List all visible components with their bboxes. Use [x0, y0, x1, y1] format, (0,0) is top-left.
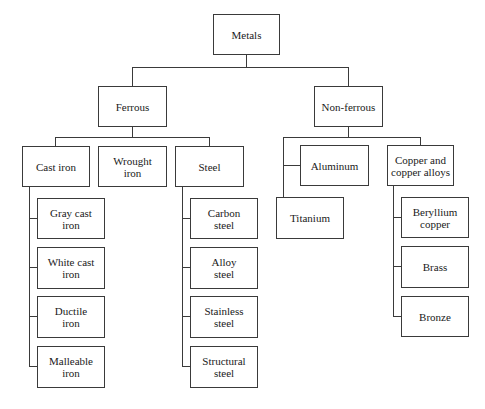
node-metals: Metals: [213, 14, 280, 55]
node-alloy-steel: Alloy steel: [190, 247, 258, 289]
connector: [182, 267, 190, 268]
node-non-ferrous: Non-ferrous: [314, 86, 383, 127]
node-malleable-iron: Malleable iron: [37, 346, 105, 388]
node-beryllium-copper: Beryllium copper: [401, 197, 469, 238]
node-ductile-iron: Ductile iron: [37, 296, 105, 338]
connector: [29, 218, 37, 219]
node-label: Aluminum: [311, 160, 359, 172]
node-stainless-steel: Stainless steel: [190, 296, 258, 338]
node-structural-steel: Structural steel: [190, 346, 258, 388]
node-label: Carbon steel: [205, 207, 243, 231]
node-aluminum: Aluminum: [300, 145, 369, 186]
connector: [246, 54, 247, 67]
node-label: Wrought iron: [111, 155, 154, 179]
node-label: Bronze: [419, 311, 451, 323]
node-cast-iron: Cast iron: [22, 146, 90, 187]
connector: [182, 186, 183, 367]
node-label: Gray cast iron: [46, 207, 96, 231]
node-label: Copper and copper alloys: [389, 154, 452, 178]
node-label: Beryllium copper: [412, 206, 458, 230]
node-label: Metals: [232, 29, 262, 41]
node-label: Titanium: [290, 212, 330, 224]
connector: [182, 366, 190, 367]
node-label: Malleable iron: [46, 355, 96, 379]
metals-classification-diagram: Metals Ferrous Non-ferrous Cast iron Wro…: [0, 0, 485, 409]
node-label: Structural steel: [199, 355, 249, 379]
node-label: Non-ferrous: [322, 101, 376, 113]
connector: [182, 316, 190, 317]
connector: [348, 126, 349, 137]
node-carbon-steel: Carbon steel: [190, 198, 258, 239]
node-steel: Steel: [175, 146, 244, 187]
connector: [29, 186, 30, 367]
connector: [182, 218, 190, 219]
connector: [132, 67, 349, 68]
connector: [348, 67, 349, 86]
connector: [55, 137, 56, 146]
connector: [132, 126, 133, 137]
node-brass: Brass: [401, 246, 469, 288]
connector: [132, 67, 133, 86]
node-copper-alloys: Copper and copper alloys: [387, 145, 454, 186]
connector: [283, 137, 284, 197]
node-bronze: Bronze: [401, 296, 469, 337]
connector: [29, 366, 37, 367]
node-label: Cast iron: [36, 161, 76, 173]
node-ferrous: Ferrous: [98, 86, 167, 127]
connector: [420, 137, 421, 145]
connector: [29, 316, 37, 317]
node-label: Brass: [423, 261, 447, 273]
node-label: White cast iron: [44, 256, 98, 280]
connector: [283, 137, 421, 138]
node-label: Stainless steel: [199, 305, 249, 329]
node-gray-cast-iron: Gray cast iron: [37, 198, 105, 239]
connector: [55, 137, 210, 138]
node-label: Ductile iron: [52, 305, 90, 329]
connector: [393, 266, 401, 267]
connector: [393, 316, 401, 317]
connector: [393, 217, 401, 218]
connector: [283, 165, 300, 166]
node-wrought-iron: Wrought iron: [98, 146, 167, 187]
node-label: Ferrous: [116, 101, 150, 113]
connector: [29, 267, 37, 268]
node-label: Alloy steel: [209, 256, 239, 280]
node-titanium: Titanium: [276, 197, 344, 239]
node-label: Steel: [199, 161, 221, 173]
connector: [209, 137, 210, 146]
node-white-cast-iron: White cast iron: [37, 247, 105, 289]
connector: [393, 185, 394, 317]
